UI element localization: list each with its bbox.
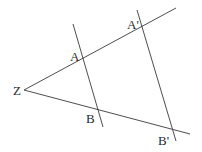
label-b: B [86,111,95,126]
label-b-prime: B' [158,133,169,148]
label-z: Z [13,83,21,98]
ray-z-b-bprime [24,90,190,134]
label-a: A [70,49,80,64]
label-a-prime: A' [127,17,139,32]
geometry-diagram: Z A B A' B' [0,0,202,152]
ray-z-a-aprime [24,8,176,90]
